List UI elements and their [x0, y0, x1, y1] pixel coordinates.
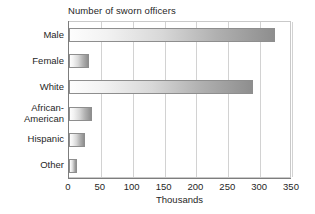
- category-label-line: African-: [0, 102, 64, 113]
- bars-group: [69, 22, 292, 179]
- x-tick-label: 300: [251, 181, 267, 192]
- bar-male: [69, 28, 275, 42]
- x-tick-label: 50: [95, 181, 106, 192]
- x-axis-line: [68, 178, 291, 179]
- bar-other: [69, 159, 77, 173]
- y-axis-line: [68, 21, 69, 179]
- plot-area: [68, 21, 291, 178]
- bar-hispanic: [69, 133, 85, 147]
- gridline: [292, 22, 293, 177]
- x-tick-label: 150: [156, 181, 172, 192]
- category-label-line: Hispanic: [0, 133, 64, 144]
- category-label-line: Male: [0, 29, 64, 40]
- category-label-male: Male: [0, 29, 64, 40]
- category-label-white: White: [0, 81, 64, 92]
- bar-african-american: [69, 107, 92, 121]
- x-tick-label: 100: [124, 181, 140, 192]
- x-tick-label: 350: [283, 181, 299, 192]
- category-label-line: Female: [0, 55, 64, 66]
- category-label-line: American: [0, 113, 64, 124]
- x-tick-label: 250: [219, 181, 235, 192]
- x-tick-label: 200: [187, 181, 203, 192]
- bar-white: [69, 80, 253, 94]
- category-label-line: Other: [0, 159, 64, 170]
- bar-female: [69, 54, 89, 68]
- category-label-hispanic: Hispanic: [0, 133, 64, 144]
- x-axis-title: Thousands: [68, 194, 291, 205]
- y-axis-category-labels: MaleFemaleWhiteAfrican-AmericanHispanicO…: [0, 21, 64, 178]
- category-label-other: Other: [0, 159, 64, 170]
- chart-title: Number of sworn officers: [68, 5, 176, 16]
- category-label-line: White: [0, 81, 64, 92]
- category-label-female: Female: [0, 55, 64, 66]
- bar-chart: Number of sworn officers MaleFemaleWhite…: [0, 0, 315, 214]
- x-tick-label: 0: [65, 181, 70, 192]
- category-label-african-american: African-American: [0, 102, 64, 124]
